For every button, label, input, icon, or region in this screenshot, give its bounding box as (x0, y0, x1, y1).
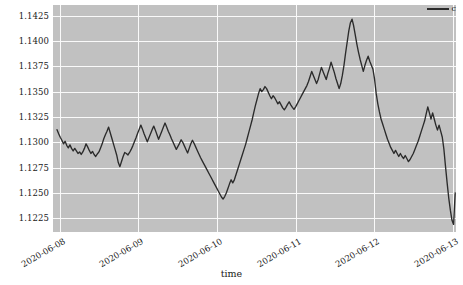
series-layer (53, 5, 456, 232)
price-line-series (53, 5, 456, 232)
y-tick-label-4: 1.1325 (19, 112, 49, 122)
legend: c (424, 3, 459, 15)
legend-line-swatch (427, 8, 449, 10)
x-axis-label: time (0, 268, 463, 279)
y-tick-label-2: 1.1275 (19, 163, 49, 173)
chart-figure: 1.12251.12501.12751.13001.13251.13501.13… (0, 0, 463, 285)
y-tick-label-8: 1.1425 (19, 11, 49, 21)
y-tick-label-7: 1.1400 (19, 36, 49, 46)
y-tick-label-0: 1.1225 (19, 213, 49, 223)
y-tick-label-6: 1.1375 (19, 61, 49, 71)
legend-label-c: c (452, 5, 456, 13)
y-tick-label-3: 1.1300 (19, 137, 49, 147)
series-polyline-c (57, 19, 455, 224)
y-tick-label-1: 1.1250 (19, 188, 49, 198)
y-tick-label-5: 1.1350 (19, 87, 49, 97)
plot-area (53, 5, 456, 232)
